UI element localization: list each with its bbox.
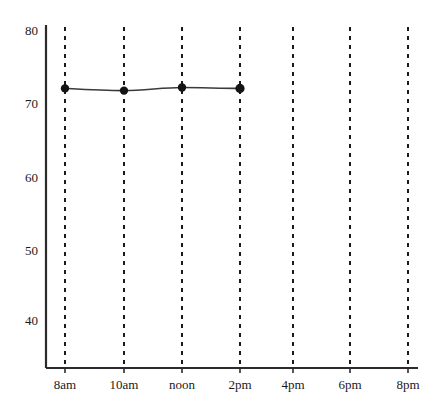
x-tick-label-8pm: 8pm: [383, 378, 433, 391]
x-tick-label-10am: 10am: [99, 378, 149, 391]
x-tick-label-2pm: 2pm: [215, 378, 265, 391]
data-point-8am: [61, 84, 69, 92]
y-tick-label-70: 70: [14, 97, 38, 110]
chart-canvas: [0, 0, 442, 411]
gridlines-vertical: [65, 27, 408, 366]
data-point-noon: [178, 83, 186, 91]
x-tick-label-6pm: 6pm: [325, 378, 375, 391]
y-tick-label-60: 60: [14, 171, 38, 184]
data-point-2pm: [235, 84, 244, 93]
series-line-temperature: [65, 88, 240, 91]
y-tick-label-50: 50: [14, 244, 38, 257]
line-chart: 80 70 60 50 40 8am 10am noon 2pm 4pm 6pm…: [0, 0, 442, 411]
x-tick-label-noon: noon: [157, 378, 207, 391]
x-tick-label-4pm: 4pm: [268, 378, 318, 391]
y-tick-label-40: 40: [14, 314, 38, 327]
data-point-10am: [120, 86, 128, 94]
x-tick-label-8am: 8am: [40, 378, 90, 391]
y-tick-label-80: 80: [14, 24, 38, 37]
